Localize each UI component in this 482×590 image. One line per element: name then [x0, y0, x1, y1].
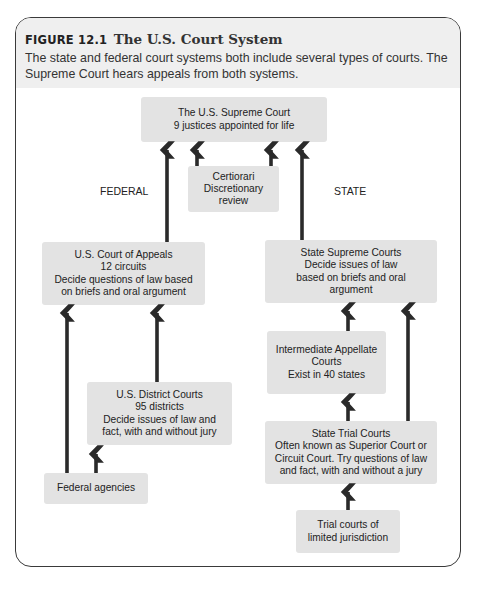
node-line: Certiorari	[204, 171, 263, 183]
node-line: review	[204, 195, 263, 207]
node-line: argument	[296, 284, 405, 296]
node-line: 9 justices appointed for life	[174, 120, 295, 132]
node-line: Exist in 40 states	[276, 369, 377, 381]
node-line: 95 districts	[102, 401, 216, 413]
node-line: Often known as Superior Court or	[275, 440, 427, 452]
node-limited-jurisdiction: Trial courts of limited jurisdiction	[296, 510, 400, 553]
figure-caption: The state and federal court systems both…	[25, 51, 459, 82]
node-intermediate-appellate: Intermediate Appellate Courts Exist in 4…	[267, 331, 386, 394]
node-line: Circuit Court. Try questions of law	[275, 453, 427, 465]
node-line: fact, with and without jury	[102, 426, 216, 438]
node-line: Intermediate Appellate	[276, 344, 377, 356]
figure-title: FIGURE 12.1 The U.S. Court System	[25, 30, 283, 48]
node-state-supreme: State Supreme Courts Decide issues of la…	[265, 240, 437, 303]
node-supreme-court: The U.S. Supreme Court 9 justices appoin…	[141, 97, 327, 142]
node-certiorari: Certiorari Discretionary review	[188, 166, 279, 212]
node-line: Decide questions of law based	[54, 274, 192, 286]
node-state-trial: State Trial Courts Often known as Superi…	[265, 421, 437, 484]
figure-header: FIGURE 12.1 The U.S. Court System The st…	[16, 18, 460, 88]
node-line: Courts	[276, 356, 377, 368]
node-line: based on briefs and oral	[296, 272, 405, 284]
node-line: Decide issues of law	[296, 259, 405, 271]
node-line: U.S. District Courts	[102, 389, 216, 401]
node-line: Federal agencies	[57, 482, 135, 494]
node-line: The U.S. Supreme Court	[174, 107, 295, 119]
node-line: State Supreme Courts	[296, 247, 405, 259]
node-line: Trial courts of	[308, 519, 388, 531]
node-line: 12 circuits	[54, 261, 192, 273]
node-federal-agencies: Federal agencies	[44, 473, 148, 504]
node-line: on briefs and oral argument	[54, 286, 192, 298]
node-line: limited jurisdiction	[308, 532, 388, 544]
state-label: STATE	[334, 185, 366, 197]
node-court-of-appeals: U.S. Court of Appeals 12 circuits Decide…	[42, 242, 205, 305]
figure-number: FIGURE 12.1	[25, 33, 107, 47]
node-line: Discretionary	[204, 183, 263, 195]
figure-name: The U.S. Court System	[114, 31, 283, 47]
node-line: State Trial Courts	[275, 428, 427, 440]
node-line: U.S. Court of Appeals	[54, 249, 192, 261]
federal-label: FEDERAL	[100, 185, 148, 197]
node-district-courts: U.S. District Courts 95 districts Decide…	[87, 382, 232, 445]
node-line: Decide issues of law and	[102, 414, 216, 426]
node-line: and fact, with and without a jury	[275, 465, 427, 477]
